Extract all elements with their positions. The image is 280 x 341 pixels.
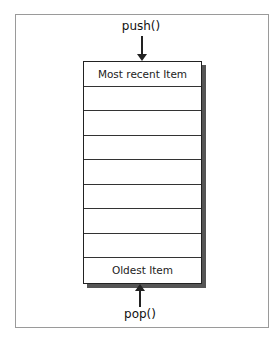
stack-row xyxy=(84,87,201,112)
stack-row xyxy=(84,160,201,185)
push-arrow-icon xyxy=(141,36,143,56)
stack-box: Most recent Item Oldest Item xyxy=(83,61,202,284)
pop-label: pop() xyxy=(100,307,180,321)
stack-row xyxy=(84,234,201,259)
stack-row xyxy=(84,209,201,234)
stack-row: Most recent Item xyxy=(84,62,201,87)
push-label: push() xyxy=(101,19,181,33)
stack-row: Oldest Item xyxy=(84,258,201,283)
stack-row xyxy=(84,136,201,161)
pop-arrow-icon xyxy=(139,290,141,307)
stack-row xyxy=(84,111,201,136)
stack-row xyxy=(84,185,201,210)
